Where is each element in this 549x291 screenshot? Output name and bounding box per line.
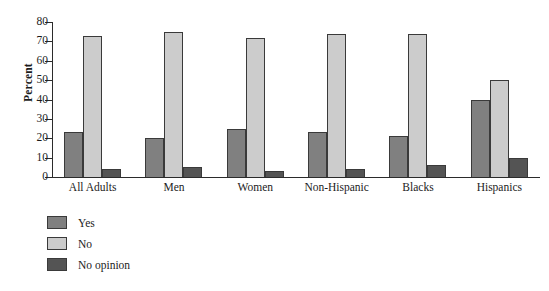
bar-group-bars [296,22,377,177]
bar-group: Non-Hispanic [296,22,377,177]
y-axis-tick-label: 0 [42,171,48,183]
x-axis-line [52,177,540,178]
y-axis-tick-label: 50 [37,74,49,86]
bar-no-opinion[interactable] [509,158,528,177]
bar-yes[interactable] [308,132,327,177]
bar-no[interactable] [83,36,102,177]
chart-legend: YesNoNo opinion [47,212,130,275]
bar-no-opinion[interactable] [102,169,121,177]
bar-yes[interactable] [145,138,164,177]
bar-no[interactable] [327,34,346,177]
legend-swatch [47,216,67,229]
bar-no-opinion[interactable] [346,169,365,177]
bar-yes[interactable] [227,129,246,177]
bar-no-opinion[interactable] [183,167,202,177]
bar-group: Hispanics [459,22,540,177]
bar-no-opinion[interactable] [427,165,446,177]
bar-group: All Adults [52,22,133,177]
bar-yes[interactable] [64,132,83,177]
x-axis-category-label: Men [133,181,214,193]
legend-item[interactable]: No opinion [47,254,130,275]
bar-no[interactable] [246,38,265,178]
y-axis-tick-label: 30 [37,113,49,125]
bar-group: Men [133,22,214,177]
y-axis-tick-label: 70 [37,36,49,48]
bar-group-bars [133,22,214,177]
bar-no[interactable] [164,32,183,177]
bar-yes[interactable] [471,100,490,178]
legend-swatch [47,258,67,271]
legend-swatch [47,237,67,250]
bar-no-opinion[interactable] [265,171,284,177]
y-axis-tick-label: 80 [37,16,49,28]
legend-label: Yes [78,217,95,229]
bar-group-bars [459,22,540,177]
plot-area: 01020304050607080All AdultsMenWomenNon-H… [52,22,540,177]
bar-group-bars [52,22,133,177]
bar-group: Women [215,22,296,177]
legend-label: No opinion [78,259,130,271]
x-axis-category-label: All Adults [52,181,133,193]
bar-no[interactable] [408,34,427,177]
x-axis-category-label: Women [215,181,296,193]
bar-group-bars [215,22,296,177]
legend-label: No [78,238,92,250]
y-axis-tick-label: 20 [37,133,49,145]
x-axis-category-label: Hispanics [459,181,540,193]
bar-yes[interactable] [389,136,408,177]
y-axis-tick-label: 40 [37,94,49,106]
y-axis-tick-label: 60 [37,55,49,67]
bar-no[interactable] [490,80,509,177]
x-axis-category-label: Non-Hispanic [296,181,377,193]
legend-item[interactable]: Yes [47,212,130,233]
bar-chart-figure: Percent 01020304050607080All AdultsMenWo… [0,0,549,291]
x-axis-category-label: Blacks [377,181,458,193]
bar-group: Blacks [377,22,458,177]
legend-item[interactable]: No [47,233,130,254]
y-axis-title-text: Percent [22,63,34,102]
bar-group-bars [377,22,458,177]
y-axis-tick-label: 10 [37,152,49,164]
